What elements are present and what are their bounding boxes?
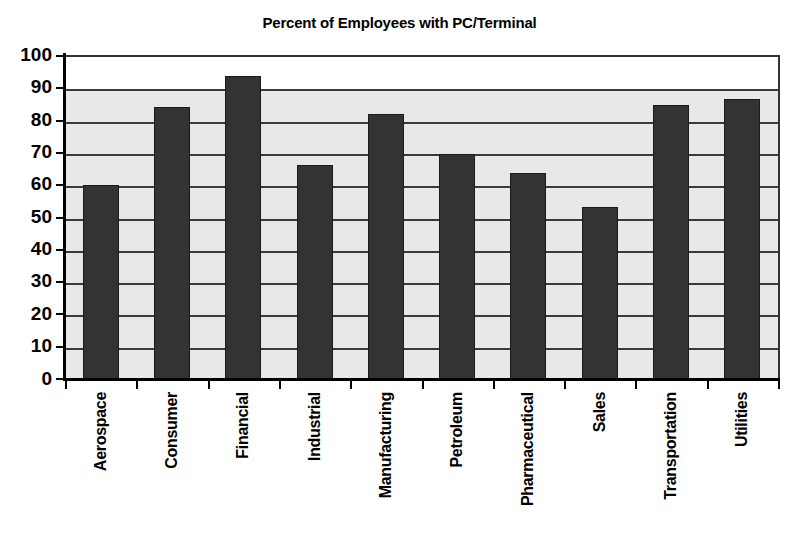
bar-petroleum[interactable]: [439, 154, 475, 380]
bar-sales[interactable]: [582, 207, 618, 380]
x-tick-mark: [564, 378, 566, 389]
y-tick-label: 0: [4, 369, 52, 388]
y-tick-mark: [56, 249, 65, 251]
x-label-slot: Sales: [564, 392, 635, 547]
y-tick-label: 70: [4, 142, 52, 161]
x-label-slot: Petroleum: [422, 392, 493, 547]
bar-slot: [422, 57, 493, 380]
y-tick-label: 30: [4, 271, 52, 290]
x-label-slot: Industrial: [279, 392, 350, 547]
y-tick-mark: [56, 152, 65, 154]
y-tick-label: 80: [4, 110, 52, 129]
y-tick-label: 20: [4, 304, 52, 323]
y-tick-mark: [56, 217, 65, 219]
bar-pharmaceutical[interactable]: [510, 173, 546, 380]
y-tick-mark: [56, 87, 65, 89]
x-label-utilities: Utilities: [733, 392, 751, 447]
x-label-pharmaceutical: Pharmaceutical: [519, 392, 537, 506]
x-label-transportation: Transportation: [662, 392, 680, 500]
y-tick-label: 50: [4, 207, 52, 226]
x-label-slot: Utilities: [707, 392, 778, 547]
bar-slot: [564, 57, 635, 380]
x-tick-mark: [493, 378, 495, 389]
bar-financial[interactable]: [225, 76, 261, 380]
bar-slot: [136, 57, 207, 380]
bar-slot: [208, 57, 279, 380]
bar-transportation[interactable]: [653, 105, 689, 380]
bar-industrial[interactable]: [297, 165, 333, 380]
x-label-slot: Aerospace: [65, 392, 136, 547]
y-tick-label: 10: [4, 336, 52, 355]
x-tick-mark: [635, 378, 637, 389]
x-tick-mark: [350, 378, 352, 389]
x-label-slot: Manufacturing: [350, 392, 421, 547]
bar-aerospace[interactable]: [83, 185, 119, 380]
bar-utilities[interactable]: [724, 99, 760, 380]
x-label-petroleum: Petroleum: [448, 392, 466, 468]
y-tick-label: 90: [4, 77, 52, 96]
x-label-slot: Pharmaceutical: [493, 392, 564, 547]
bar-slot: [635, 57, 706, 380]
x-label-slot: Consumer: [136, 392, 207, 547]
x-tick-mark: [65, 378, 67, 389]
x-tick-mark: [422, 378, 424, 389]
x-label-slot: Financial: [208, 392, 279, 547]
x-tick-mark: [778, 378, 780, 389]
bar-manufacturing[interactable]: [368, 114, 404, 380]
y-tick-label: 40: [4, 239, 52, 258]
bar-slot: [350, 57, 421, 380]
y-tick-label: 100: [4, 45, 52, 64]
x-axis-category-labels: Aerospace Consumer Financial Industrial …: [65, 392, 778, 547]
x-label-financial: Financial: [234, 392, 252, 459]
y-tick-mark: [56, 378, 65, 380]
x-tick-mark: [279, 378, 281, 389]
chart-title: Percent of Employees with PC/Terminal: [0, 14, 799, 31]
x-tick-mark: [707, 378, 709, 389]
bar-slot: [493, 57, 564, 380]
y-tick-mark: [56, 120, 65, 122]
y-tick-label: 60: [4, 174, 52, 193]
x-label-consumer: Consumer: [163, 392, 181, 469]
y-tick-mark: [56, 346, 65, 348]
bar-slot: [65, 57, 136, 380]
plot-area: [65, 55, 780, 380]
y-axis-tick-labels: 100 90 80 70 60 50 40 30 20 10 0: [0, 0, 52, 552]
bar-consumer[interactable]: [154, 107, 190, 380]
x-tick-mark: [208, 378, 210, 389]
y-tick-mark: [56, 281, 65, 283]
x-label-aerospace: Aerospace: [92, 392, 110, 471]
bar-slot: [707, 57, 778, 380]
bar-slot: [279, 57, 350, 380]
y-tick-mark: [56, 313, 65, 315]
y-tick-mark: [56, 184, 65, 186]
x-label-slot: Transportation: [635, 392, 706, 547]
bars-layer: [65, 57, 778, 380]
x-tick-mark: [136, 378, 138, 389]
x-label-manufacturing: Manufacturing: [377, 392, 395, 498]
chart-figure: Percent of Employees with PC/Terminal 10…: [0, 0, 799, 552]
x-label-industrial: Industrial: [306, 392, 324, 461]
x-label-sales: Sales: [591, 392, 609, 432]
y-tick-mark: [56, 55, 65, 57]
